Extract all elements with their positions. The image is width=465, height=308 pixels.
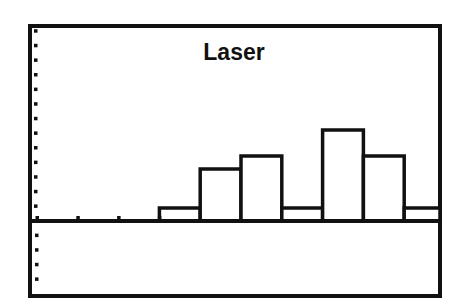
y-tick-mark [34,44,38,48]
y-tick-mark [35,234,39,238]
histogram-bar [200,169,241,221]
y-tick-mark [34,58,38,62]
chart-title: Laser [203,39,264,65]
x-tick-mark [76,216,80,221]
histogram-bar [323,130,364,221]
y-tick-mark [34,131,38,135]
y-tick-mark [34,117,38,121]
y-tick-mark [34,29,38,33]
y-tick-mark [35,277,39,281]
y-tick-mark [34,146,38,150]
y-tick-mark [34,175,38,179]
y-tick-mark [34,73,38,77]
histogram-bar [363,156,404,221]
y-tick-mark [35,263,39,267]
y-tick-mark [34,190,38,194]
x-tick-mark [36,216,40,221]
y-tick-mark [34,88,38,92]
x-tick-mark [158,216,162,221]
y-tick-mark [34,204,38,208]
y-tick-mark [34,102,38,106]
x-tick-mark [117,216,121,221]
y-tick-mark [35,248,39,252]
histogram-bar [241,156,282,221]
y-tick-mark [34,161,38,165]
histogram-chart: Laser [0,0,465,308]
